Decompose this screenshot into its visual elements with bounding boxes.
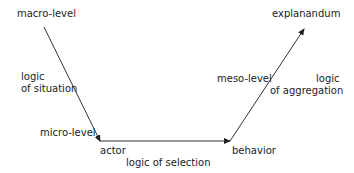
label-actor: actor (100, 145, 126, 157)
label-logic-situation-1: logic (21, 71, 45, 83)
label-logic-aggregation-2: of aggregation (270, 85, 343, 97)
label-logic-situation-2: of situation (21, 83, 77, 95)
label-logic-selection: logic of selection (126, 157, 210, 169)
label-micro-level: micro-level (40, 127, 96, 139)
label-explanandum: explanandum (272, 8, 340, 20)
label-behavior: behavior (232, 145, 276, 157)
label-meso-level: meso-level (217, 73, 272, 85)
label-macro-level: macro-level (17, 8, 76, 20)
label-logic-aggregation-1: logic (316, 73, 340, 85)
